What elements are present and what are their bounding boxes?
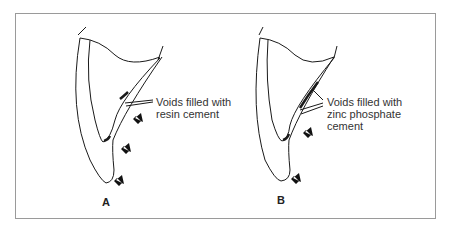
arrow-icon <box>121 143 131 154</box>
annotation-line: resin cement <box>156 108 231 120</box>
annotation-a: Voids filled with resin cement <box>156 96 231 120</box>
annotation-b: Voids filled with zinc phosphate cement <box>327 96 402 132</box>
panel-label-a: A <box>102 196 110 208</box>
annotation-line: cement <box>327 120 402 132</box>
arrow-icon <box>303 127 313 138</box>
panel-label-b: B <box>277 194 285 206</box>
annotation-line: Voids filled with <box>327 96 402 108</box>
annotation-line: zinc phosphate <box>327 108 402 120</box>
arrow-icon <box>114 175 124 186</box>
annotation-line: Voids filled with <box>156 96 231 108</box>
arrow-icon <box>291 173 301 184</box>
tooth-outline-b <box>256 27 337 181</box>
tooth-outline-a <box>76 27 163 183</box>
arrow-icon <box>133 113 143 124</box>
